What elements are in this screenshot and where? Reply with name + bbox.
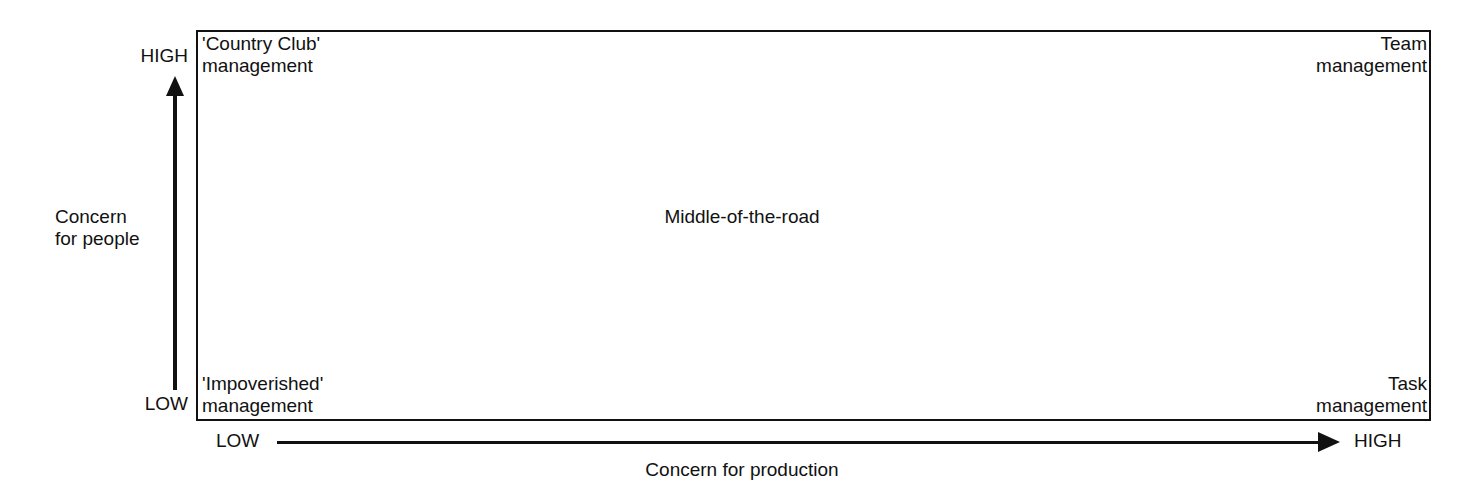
y-axis-title: Concern for people bbox=[0, 206, 160, 250]
x-axis-title: Concern for production bbox=[0, 459, 1484, 481]
quadrant-label-middle-of-the-road: Middle-of-the-road bbox=[0, 206, 1484, 228]
y-axis-line bbox=[173, 88, 177, 390]
x-axis-tick-low: LOW bbox=[216, 430, 259, 452]
y-axis-tick-low: LOW bbox=[60, 393, 188, 415]
quadrant-label-task-management: Task management bbox=[1316, 373, 1427, 417]
managerial-grid-diagram: 'Country Club' management Team managemen… bbox=[0, 0, 1484, 487]
x-axis-line bbox=[277, 441, 1324, 444]
quadrant-label-team-management: Team management bbox=[1316, 33, 1427, 77]
quadrant-label-country-club: 'Country Club' management bbox=[202, 33, 320, 77]
y-axis-tick-high: HIGH bbox=[60, 45, 188, 67]
quadrant-label-impoverished: 'Impoverished' management bbox=[202, 373, 323, 417]
x-axis-tick-high: HIGH bbox=[1354, 430, 1402, 452]
x-axis-arrowhead-icon bbox=[1318, 432, 1340, 452]
